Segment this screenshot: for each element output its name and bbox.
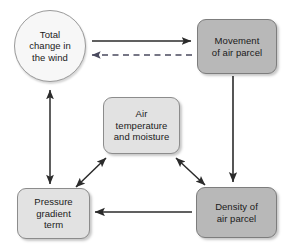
node-pressure-gradient-label: Pressure gradient term <box>31 196 75 231</box>
node-air-temperature-label: Air temperature and moisture <box>111 108 173 143</box>
edge-pressure-gradient-air-temperature <box>76 158 106 187</box>
node-density-of-air-parcel[interactable]: Density of air parcel <box>196 187 277 238</box>
node-air-temperature-and-moisture[interactable]: Air temperature and moisture <box>103 97 180 154</box>
node-total-change[interactable]: Total change in the wind <box>14 10 86 82</box>
edge-density-air-temperature <box>176 158 205 185</box>
node-movement-label: Movement of air parcel <box>209 35 265 58</box>
node-pressure-gradient-term[interactable]: Pressure gradient term <box>17 188 90 239</box>
diagram-canvas: Total change in the wind Movement of air… <box>0 0 286 251</box>
node-movement-of-air-parcel[interactable]: Movement of air parcel <box>197 19 277 74</box>
node-density-label: Density of air parcel <box>212 201 261 224</box>
node-total-change-label: Total change in the wind <box>26 29 74 64</box>
